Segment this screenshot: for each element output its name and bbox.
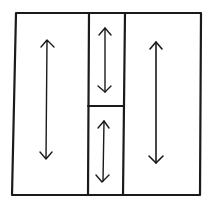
outer-box	[12, 13, 201, 195]
double-arrow-icon-middle-bottom	[96, 121, 109, 182]
middle-column-right-edge	[123, 13, 125, 195]
middle-column-left-edge	[88, 13, 89, 195]
double-arrow-icon-middle-top	[98, 28, 111, 92]
diagram-canvas	[0, 0, 211, 211]
double-arrow-icon-right	[149, 42, 163, 163]
double-arrow-icon-left	[40, 40, 54, 159]
